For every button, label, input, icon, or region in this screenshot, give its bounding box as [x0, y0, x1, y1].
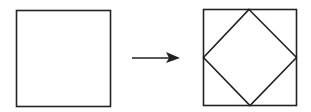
result-square — [204, 10, 297, 106]
inscribed-diamond — [204, 10, 297, 106]
transformation-diagram — [0, 0, 311, 112]
right-arrow-icon — [132, 52, 180, 63]
original-square — [17, 11, 111, 107]
